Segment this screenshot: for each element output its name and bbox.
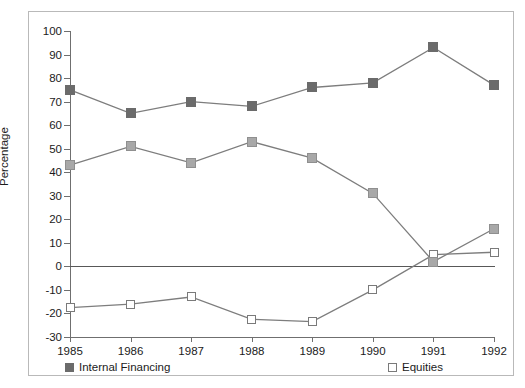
equities-swatch-icon bbox=[388, 363, 397, 372]
data-point-marker bbox=[428, 257, 438, 267]
data-point-marker bbox=[187, 292, 196, 301]
data-point-marker bbox=[490, 248, 499, 257]
chart-figure: Percentage 1009080706050403020100-10-20-… bbox=[0, 0, 525, 388]
chart-legend: Internal FinancingEquitiesDebt bbox=[40, 361, 510, 377]
data-point-marker bbox=[126, 141, 136, 151]
data-point-marker bbox=[307, 153, 317, 163]
data-point-marker bbox=[489, 80, 499, 90]
data-point-marker bbox=[307, 82, 317, 92]
data-point-marker bbox=[65, 85, 75, 95]
series-lines bbox=[0, 0, 525, 388]
data-point-marker bbox=[247, 137, 257, 147]
data-point-marker bbox=[65, 160, 75, 170]
data-point-marker bbox=[368, 285, 377, 294]
legend-entry: Internal Financing bbox=[65, 361, 170, 373]
data-point-marker bbox=[247, 315, 256, 324]
internal-financing-swatch-icon bbox=[65, 363, 74, 372]
data-point-marker bbox=[186, 158, 196, 168]
legend-entry: Equities bbox=[388, 361, 443, 373]
series-line bbox=[70, 47, 494, 113]
data-point-marker bbox=[489, 224, 499, 234]
data-point-marker bbox=[66, 303, 75, 312]
data-point-marker bbox=[247, 101, 257, 111]
data-point-marker bbox=[368, 188, 378, 198]
series-line bbox=[70, 142, 494, 262]
data-point-marker bbox=[308, 317, 317, 326]
data-point-marker bbox=[428, 42, 438, 52]
data-point-marker bbox=[126, 300, 135, 309]
legend-label: Internal Financing bbox=[79, 361, 170, 373]
data-point-marker bbox=[126, 108, 136, 118]
legend-label: Equities bbox=[402, 361, 443, 373]
data-point-marker bbox=[368, 78, 378, 88]
data-point-marker bbox=[186, 97, 196, 107]
